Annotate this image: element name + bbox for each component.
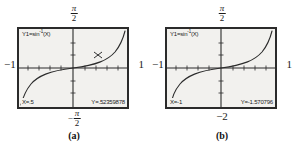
panel-caption-a: (a)	[68, 131, 80, 141]
panel-a: π 2 −1 1	[0, 0, 148, 154]
figure-two-calculator-screens: π 2 −1 1	[0, 0, 296, 154]
y-axis-top-label-denominator: 2	[71, 14, 78, 23]
x-axis-right-label: 1	[139, 59, 145, 70]
equation-label-a: Y1=sin-1(X)	[21, 30, 51, 38]
y-axis-top-label-denominator-b: 2	[219, 14, 226, 23]
equation-label-b: Y1=sin-1(X)	[169, 30, 199, 38]
equation-label-b-text: Y1=sin	[170, 31, 187, 37]
trace-cursor-a	[94, 52, 102, 58]
equation-label-a-text: Y1=sin	[22, 31, 39, 37]
trace-y-readout-b: Y=-1.570796	[240, 98, 274, 106]
y-axis-bottom-label-denominator: 2	[74, 119, 81, 128]
y-axis-bottom-label-sign: −	[68, 114, 73, 123]
x-axis-left-label-b: −1	[152, 59, 164, 70]
y-axis-bottom-label-negative-pi-over-2: − π 2	[68, 109, 81, 128]
trace-x-readout-b: X=-1	[169, 98, 183, 106]
equation-label-b-arg: (X)	[191, 31, 198, 37]
y-axis-bottom-label-b: −2	[216, 111, 228, 122]
trace-x-readout-a: X=.5	[21, 98, 35, 106]
trace-y-readout-a: Y=.52359878	[90, 98, 126, 106]
calculator-screen-a[interactable]: Y1=sin-1(X) X=.5 Y=.52359878	[17, 27, 129, 109]
panel-b: π 2 −1 1	[148, 0, 296, 154]
y-axis-top-label-pi-over-2: π 2	[71, 4, 78, 23]
calculator-screen-b[interactable]: Y1=sin-1(X) X=-1 Y=-1.570796	[165, 27, 277, 109]
plot-canvas-a	[19, 29, 127, 107]
x-axis-left-label: −1	[4, 59, 16, 70]
panel-caption-b: (b)	[216, 131, 228, 141]
y-axis-top-label-pi-over-2-b: π 2	[219, 4, 226, 23]
plot-canvas-b	[167, 29, 275, 107]
x-axis-right-label-b: 1	[287, 59, 293, 70]
equation-label-a-arg: (X)	[43, 31, 50, 37]
